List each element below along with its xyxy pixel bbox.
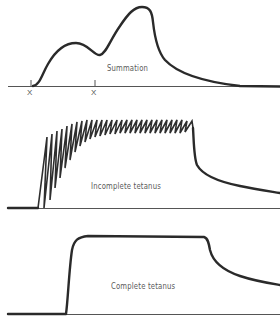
summation-trace xyxy=(33,7,280,87)
summation-panel xyxy=(8,7,280,87)
complete-tetanus-label: Complete tetanus xyxy=(111,281,175,291)
muscle-contraction-figure: Summation X X Incomplete tetanus Complet… xyxy=(0,0,280,322)
stimulus-mark-2: X xyxy=(91,88,96,97)
complete-tetanus-trace xyxy=(8,236,280,314)
incomplete-tetanus-decay xyxy=(193,128,280,193)
summation-label: Summation xyxy=(107,63,148,73)
incomplete-tetanus-label: Incomplete tetanus xyxy=(91,181,161,191)
complete-tetanus-panel xyxy=(8,236,280,315)
incomplete-tetanus-panel xyxy=(8,120,280,209)
figure-canvas xyxy=(0,0,280,322)
incomplete-tetanus-trace xyxy=(38,120,193,208)
stimulus-mark-1: X xyxy=(27,88,32,97)
